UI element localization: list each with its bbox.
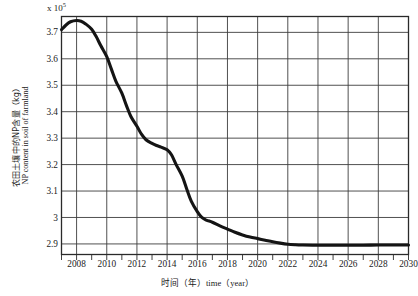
x-axis-tick-label: 2022 bbox=[279, 259, 298, 269]
x-axis-tick-label: 2026 bbox=[339, 259, 358, 269]
y-axis-tick-label: 3.6 bbox=[32, 54, 58, 64]
x-axis-tick-label: 2012 bbox=[128, 259, 147, 269]
x-axis-title-en: time（year） bbox=[206, 278, 254, 288]
x-axis-tick-label: 2010 bbox=[98, 259, 117, 269]
x-axis-tick-label: 2014 bbox=[158, 259, 177, 269]
y-axis-tick-label: 3.7 bbox=[32, 27, 58, 37]
x-axis-tick-label: 2016 bbox=[188, 259, 207, 269]
y-axis-tick-label: 3.4 bbox=[32, 107, 58, 117]
x-axis-tick-label: 2020 bbox=[248, 259, 267, 269]
x-axis-title-cn: 时间（年） bbox=[161, 278, 206, 288]
x-axis-tick-label: 2018 bbox=[218, 259, 237, 269]
y-axis-tick-label: 3.5 bbox=[32, 80, 58, 90]
x-axis-title: 时间（年）time（year） bbox=[0, 276, 415, 288]
gridlines bbox=[62, 17, 409, 255]
x-axis-tick-labels: 2008201020122014201620182020202220242026… bbox=[0, 259, 415, 275]
y-axis-tick-labels: 2.933.13.23.33.43.53.63.7 bbox=[30, 0, 58, 296]
x-axis-tick-label: 2008 bbox=[67, 259, 86, 269]
y-axis-tick-label: 3.2 bbox=[32, 160, 58, 170]
y-axis-tick-label: 3.1 bbox=[32, 186, 58, 196]
plot-frame bbox=[62, 17, 409, 255]
y-axis-tick-label: 3.3 bbox=[32, 133, 58, 143]
data-line-np-content bbox=[62, 20, 409, 245]
x-axis-tick-label: 2024 bbox=[309, 259, 328, 269]
y-axis-tick-label: 2.9 bbox=[32, 239, 58, 249]
y-axis-exponent-power: 5 bbox=[63, 1, 66, 8]
y-axis-tick-label: 3 bbox=[32, 213, 58, 223]
x-axis-tick-label: 2030 bbox=[399, 259, 418, 269]
x-axis-tick-label: 2028 bbox=[369, 259, 388, 269]
